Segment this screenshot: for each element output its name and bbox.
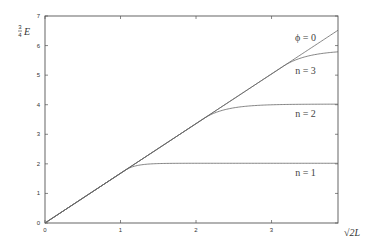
y-tick-label: 7 (37, 13, 41, 19)
series-n3 (45, 52, 338, 223)
y-label-frac-den: 4 (18, 32, 22, 38)
x-axis-label: √2L (344, 227, 360, 238)
y-tick-label: 6 (37, 43, 41, 49)
y-tick-label: 3 (37, 131, 41, 137)
x-tick-label: 0 (43, 227, 47, 233)
y-tick-label: 2 (37, 161, 41, 167)
curve-label-n3: n = 3 (295, 65, 316, 76)
curve-label-n2: n = 2 (295, 108, 316, 119)
y-tick-label: 5 (37, 72, 41, 78)
y-tick-label: 1 (37, 190, 41, 196)
y-axis-label: 3 4 E (18, 24, 30, 38)
x-tick-label: 2 (194, 227, 198, 233)
y-tick-label: 4 (37, 102, 41, 108)
y-label-frac-num: 3 (18, 24, 22, 30)
plot-border (45, 16, 338, 223)
curve-labels: ϕ = 0n = 3n = 2n = 1 (295, 32, 316, 178)
series-group (45, 30, 338, 223)
y-label-var: E (23, 26, 30, 37)
x-tick-label: 3 (270, 227, 274, 233)
chart: 012301234567 ϕ = 0n = 3n = 2n = 1 3 4 E … (0, 0, 378, 247)
x-tick-label: 1 (119, 227, 123, 233)
curve-label-phi0: ϕ = 0 (295, 32, 316, 43)
series-n1 (45, 163, 338, 223)
y-tick-label: 0 (37, 220, 41, 226)
plot-frame (45, 16, 338, 223)
curve-label-n1: n = 1 (295, 167, 316, 178)
ticks: 012301234567 (37, 13, 338, 233)
